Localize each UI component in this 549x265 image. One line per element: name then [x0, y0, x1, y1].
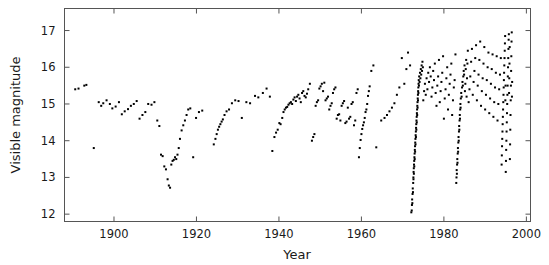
- data-point: [416, 114, 418, 116]
- data-point: [454, 53, 456, 55]
- data-point: [495, 72, 497, 74]
- data-point: [338, 113, 340, 115]
- data-point: [500, 57, 502, 59]
- data-point: [453, 86, 455, 88]
- data-point: [511, 81, 513, 83]
- data-point: [449, 83, 451, 85]
- data-point: [506, 112, 508, 114]
- data-point: [372, 64, 374, 66]
- data-point: [431, 96, 433, 98]
- data-point: [286, 106, 288, 108]
- data-point: [234, 99, 236, 101]
- data-point: [216, 133, 218, 135]
- data-point: [450, 63, 452, 65]
- data-point: [359, 147, 361, 149]
- data-point: [487, 52, 489, 54]
- data-point: [493, 101, 495, 103]
- data-point: [411, 204, 413, 206]
- data-point: [419, 77, 421, 79]
- data-point: [459, 103, 461, 105]
- data-point: [476, 99, 478, 101]
- data-point: [415, 143, 417, 145]
- data-point: [365, 111, 367, 113]
- data-point: [483, 46, 485, 48]
- y-axis-title: Visible magnitude: [8, 57, 23, 174]
- data-point: [156, 120, 158, 122]
- data-point: [510, 55, 512, 57]
- data-point: [412, 193, 414, 195]
- data-point: [331, 102, 333, 104]
- data-point: [353, 124, 355, 126]
- data-point: [503, 86, 505, 88]
- data-point: [421, 70, 423, 72]
- data-point: [224, 114, 226, 116]
- data-point: [407, 52, 409, 54]
- data-point: [231, 102, 233, 104]
- data-point: [418, 83, 420, 85]
- data-point: [136, 100, 138, 102]
- x-axis-title: Year: [282, 247, 311, 262]
- data-point: [186, 114, 188, 116]
- data-point: [437, 75, 439, 77]
- data-point: [365, 108, 367, 110]
- data-point: [458, 131, 460, 133]
- data-point: [505, 171, 507, 173]
- data-point: [415, 127, 417, 129]
- data-point: [74, 88, 76, 90]
- data-point: [446, 66, 448, 68]
- data-point: [505, 149, 507, 151]
- data-point: [457, 142, 459, 144]
- data-point: [415, 123, 417, 125]
- data-point: [511, 96, 513, 98]
- data-point: [465, 68, 467, 70]
- data-point: [417, 92, 419, 94]
- data-point: [422, 99, 424, 101]
- data-point: [497, 120, 499, 122]
- data-point: [452, 99, 454, 101]
- data-point: [226, 110, 228, 112]
- data-point: [294, 96, 296, 98]
- data-point: [291, 103, 293, 105]
- data-point: [501, 164, 503, 166]
- data-point: [418, 85, 420, 87]
- data-point: [419, 72, 421, 74]
- data-point: [127, 108, 129, 110]
- data-point: [316, 101, 318, 103]
- y-tick-label: 16: [41, 60, 56, 74]
- data-point: [170, 164, 172, 166]
- data-point: [417, 94, 419, 96]
- data-point: [473, 70, 475, 72]
- data-point: [456, 169, 458, 171]
- data-point: [509, 158, 511, 160]
- data-point: [346, 121, 348, 123]
- data-points: [74, 31, 513, 213]
- data-point: [413, 171, 415, 173]
- data-point: [416, 108, 418, 110]
- data-point: [419, 81, 421, 83]
- data-point: [482, 77, 484, 79]
- data-point: [455, 182, 457, 184]
- data-point: [141, 114, 143, 116]
- data-point: [413, 160, 415, 162]
- data-point: [498, 88, 500, 90]
- data-point: [478, 74, 480, 76]
- data-point: [510, 85, 512, 87]
- data-point: [380, 120, 382, 122]
- data-point: [417, 90, 419, 92]
- data-point: [431, 86, 433, 88]
- data-point: [442, 55, 444, 57]
- data-point: [214, 138, 216, 140]
- data-point: [440, 81, 442, 83]
- data-point: [459, 108, 461, 110]
- data-point: [306, 93, 308, 95]
- data-point: [507, 48, 509, 50]
- data-point: [466, 63, 468, 65]
- data-point: [341, 105, 343, 107]
- data-point: [281, 117, 283, 119]
- data-point: [445, 77, 447, 79]
- data-point: [201, 110, 203, 112]
- data-point: [332, 92, 334, 94]
- data-point: [179, 138, 181, 140]
- x-tick-label: 1920: [182, 227, 211, 241]
- data-point: [511, 31, 513, 33]
